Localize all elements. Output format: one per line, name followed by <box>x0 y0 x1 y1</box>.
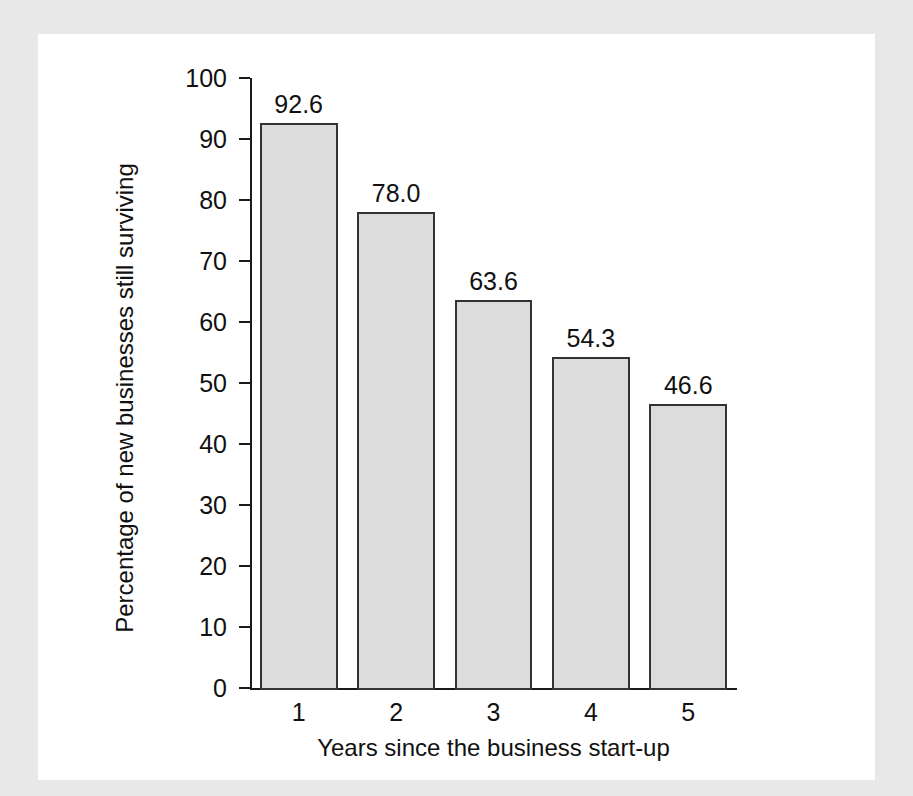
y-tick-mark <box>239 382 250 384</box>
y-tick-mark <box>239 321 250 323</box>
y-tick-mark <box>239 443 250 445</box>
x-category-label: 5 <box>638 698 738 727</box>
y-tick-label: 40 <box>163 430 227 459</box>
y-tick-label: 20 <box>163 552 227 581</box>
y-tick-mark <box>239 626 250 628</box>
bar <box>455 300 533 690</box>
y-tick-label: 50 <box>163 369 227 398</box>
y-tick-label: 90 <box>163 125 227 154</box>
y-tick-mark <box>239 138 250 140</box>
y-tick-label: 100 <box>163 64 227 93</box>
chart-card: 0102030405060708090100 92.678.063.654.34… <box>38 34 875 780</box>
bar-value-label: 63.6 <box>434 267 554 296</box>
bar-value-label: 54.3 <box>531 324 651 353</box>
x-category-label: 4 <box>541 698 641 727</box>
y-tick-label: 30 <box>163 491 227 520</box>
bar <box>649 404 727 690</box>
bar-chart: 0102030405060708090100 92.678.063.654.34… <box>38 34 875 780</box>
y-tick-mark <box>239 199 250 201</box>
y-tick-mark <box>239 504 250 506</box>
y-tick-mark <box>239 260 250 262</box>
bar <box>552 357 630 690</box>
bar-value-label: 92.6 <box>239 90 359 119</box>
x-category-label: 3 <box>444 698 544 727</box>
bar <box>357 212 435 690</box>
y-tick-mark <box>239 687 250 689</box>
y-tick-mark <box>239 565 250 567</box>
y-tick-label: 0 <box>163 674 227 703</box>
y-tick-label: 10 <box>163 613 227 642</box>
y-axis-title: Percentage of new businesses still survi… <box>111 148 139 648</box>
y-tick-mark <box>239 77 250 79</box>
y-axis-line <box>250 78 252 690</box>
bar-value-label: 46.6 <box>628 371 748 400</box>
y-tick-label: 80 <box>163 186 227 215</box>
x-category-label: 2 <box>346 698 446 727</box>
x-category-label: 1 <box>249 698 349 727</box>
x-axis-title: Years since the business start-up <box>250 734 737 762</box>
figure-background: 0102030405060708090100 92.678.063.654.34… <box>0 0 913 796</box>
bar <box>260 123 338 690</box>
bar-value-label: 78.0 <box>336 179 456 208</box>
y-tick-label: 70 <box>163 247 227 276</box>
y-tick-label: 60 <box>163 308 227 337</box>
